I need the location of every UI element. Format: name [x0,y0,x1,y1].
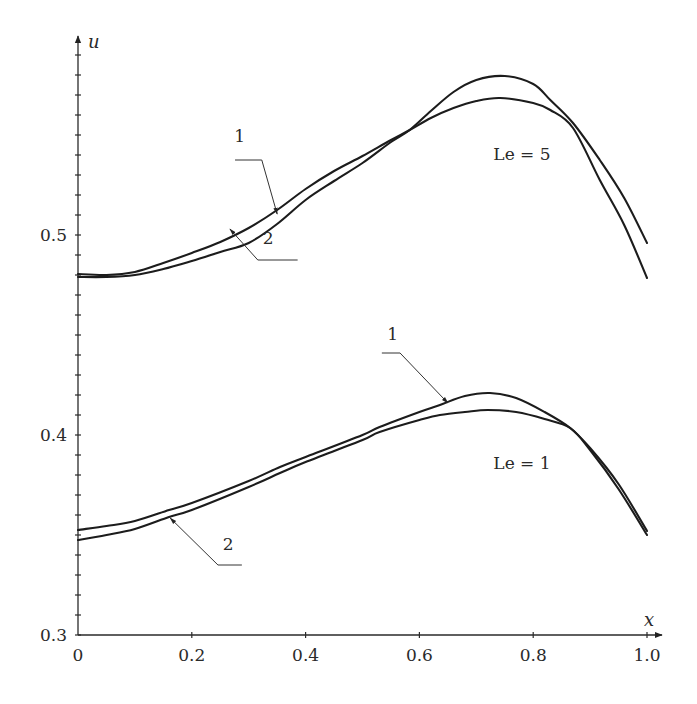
curve-label: 2 [263,228,274,248]
line-chart: 00.20.40.60.81.00.30.40.5 1212Le = 5Le =… [0,0,697,704]
x-tick-label: 0.6 [406,645,433,665]
curve-le1-series-2 [78,410,647,540]
leader-arrow [170,518,218,565]
curve-le5-series-1 [78,76,647,277]
curve-le5-series-2 [78,98,647,278]
curve-labels: 1212Le = 5Le = 1 [170,126,550,565]
x-axis-title: x [644,609,654,630]
curve-le1-series-1 [78,393,647,531]
curve-label: 1 [387,324,398,344]
x-tick-label: 0.4 [292,645,319,665]
le-annotation: Le = 5 [493,144,550,164]
y-tick-label: 0.5 [40,225,67,245]
y-axis-title: u [88,31,100,52]
leader-arrow [230,229,258,260]
curve-label: 1 [234,126,245,146]
leader-arrow [400,353,448,403]
x-tick-label: 0 [73,645,84,665]
y-tick-label: 0.3 [40,625,67,645]
x-tick-label: 1.0 [633,645,660,665]
le-annotation: Le = 1 [493,453,550,473]
curve-label: 2 [223,534,234,554]
x-tick-label: 0.2 [178,645,205,665]
curves [78,76,647,540]
x-tick-label: 0.8 [520,645,547,665]
leader-arrow [262,160,277,214]
y-tick-label: 0.4 [40,425,67,445]
axes: 00.20.40.60.81.00.30.40.5 [40,36,662,665]
